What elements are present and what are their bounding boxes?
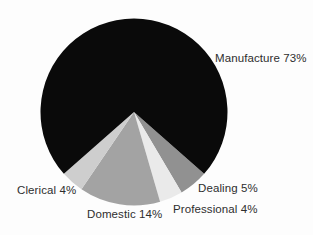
slice-label: Clerical 4% <box>17 184 76 196</box>
slice-label: Dealing 5% <box>198 182 258 194</box>
slice-label: Professional 4% <box>173 203 258 215</box>
slice-label: Manufacture 73% <box>215 52 307 64</box>
slice-label: Domestic 14% <box>87 208 162 220</box>
pie-svg <box>0 0 313 235</box>
pie-chart-figure: Dealing 5% Professional 4% Domestic 14% … <box>0 0 313 235</box>
pie-slices <box>41 19 228 206</box>
